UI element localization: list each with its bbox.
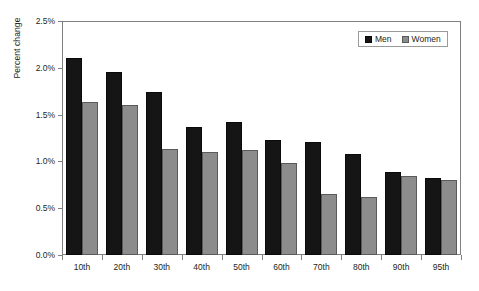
bar-women-30th xyxy=(162,149,178,255)
bar-group xyxy=(222,0,262,291)
bar-men-10th xyxy=(66,58,82,255)
bar-women-95th xyxy=(441,180,457,255)
bar-women-70th xyxy=(321,194,337,255)
bar-group xyxy=(301,0,341,291)
bar-women-60th xyxy=(281,163,297,255)
bar-men-60th xyxy=(265,140,281,255)
bar-men-95th xyxy=(425,178,441,255)
bar-men-80th xyxy=(345,154,361,255)
bar-men-20th xyxy=(106,72,122,255)
bar-chart-figure: Percent change 0.0%0.5%1.0%1.5%2.0%2.5% … xyxy=(0,0,479,291)
legend-label-men: Men xyxy=(375,34,392,44)
legend-swatch-women-icon xyxy=(402,36,409,43)
bar-women-90th xyxy=(401,176,417,255)
bar-women-50th xyxy=(242,150,258,255)
bar-group xyxy=(62,0,102,291)
legend-swatch-men-icon xyxy=(365,36,372,43)
legend-label-women: Women xyxy=(412,34,441,44)
bar-group xyxy=(182,0,222,291)
bar-men-50th xyxy=(226,122,242,255)
bar-group xyxy=(102,0,142,291)
bar-men-90th xyxy=(385,172,401,255)
bar-group xyxy=(262,0,302,291)
bar-men-70th xyxy=(305,142,321,255)
bar-group xyxy=(142,0,182,291)
bar-women-10th xyxy=(82,102,98,256)
legend-entry-women: Women xyxy=(402,34,441,44)
bar-men-30th xyxy=(146,92,162,255)
bar-women-20th xyxy=(122,105,138,255)
legend-entry-men: Men xyxy=(365,34,392,44)
chart-legend: Men Women xyxy=(358,31,448,47)
bar-men-40th xyxy=(186,127,202,255)
bar-women-40th xyxy=(202,152,218,255)
bar-women-80th xyxy=(361,197,377,255)
